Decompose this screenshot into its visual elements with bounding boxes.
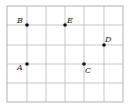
point-a-label: A <box>16 63 23 72</box>
point-b-dot <box>25 23 29 27</box>
grid-diagram: B E D A C <box>0 0 129 108</box>
point-a-dot <box>25 62 29 66</box>
grid-lines <box>7 6 123 102</box>
point-e-label: E <box>66 16 73 25</box>
point-d-label: D <box>104 35 112 44</box>
point-b-label: B <box>16 16 23 25</box>
point-c-label: C <box>85 66 91 75</box>
